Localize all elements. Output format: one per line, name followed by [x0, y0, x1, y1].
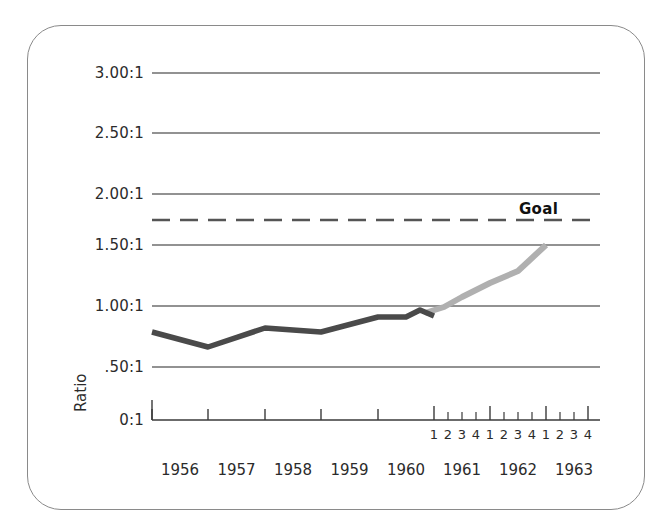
- chart-figure: Ratio 3.00:1 2.50:1 2.00:1 1.50:1 1.00:1…: [0, 0, 664, 529]
- y-tick-label-1.00: 1.00:1: [56, 297, 144, 315]
- series-projected-line: [425, 245, 546, 313]
- y-tick-label-0: 0:1: [56, 411, 144, 429]
- y-tick-label-2.00: 2.00:1: [56, 185, 144, 203]
- x-quarter-label-1963-q4: 4: [581, 427, 595, 442]
- x-year-label-1958: 1958: [265, 461, 321, 479]
- x-quarter-label-1962-q3: 3: [511, 427, 525, 442]
- x-quarter-label-1961-q2: 2: [441, 427, 455, 442]
- x-axis: [152, 406, 600, 420]
- series-actual-line: [152, 310, 434, 347]
- y-tick-label-2.50: 2.50:1: [56, 124, 144, 142]
- x-year-label-1960: 1960: [378, 461, 434, 479]
- y-tick-label-0.50: .50:1: [56, 358, 144, 376]
- x-year-label-1962: 1962: [490, 461, 546, 479]
- x-quarter-label-1961-q1: 1: [427, 427, 441, 442]
- y-tick-label-1.50: 1.50:1: [56, 236, 144, 254]
- y-axis-title: Ratio: [72, 373, 90, 412]
- x-year-label-1963: 1963: [546, 461, 602, 479]
- x-quarter-label-1963-q1: 1: [539, 427, 553, 442]
- x-quarter-label-1962-q1: 1: [483, 427, 497, 442]
- goal-annotation-label: Goal: [519, 200, 558, 218]
- x-quarter-label-1962-q4: 4: [525, 427, 539, 442]
- x-quarter-label-1961-q4: 4: [469, 427, 483, 442]
- x-year-label-1959: 1959: [321, 461, 378, 479]
- y-tick-label-3.00: 3.00:1: [56, 64, 144, 82]
- x-year-label-1956: 1956: [152, 461, 208, 479]
- x-year-label-1961: 1961: [434, 461, 490, 479]
- x-quarter-label-1963-q3: 3: [567, 427, 581, 442]
- x-quarter-label-1961-q3: 3: [455, 427, 469, 442]
- x-quarter-label-1963-q2: 2: [553, 427, 567, 442]
- x-year-label-1957: 1957: [208, 461, 265, 479]
- x-quarter-label-1962-q2: 2: [497, 427, 511, 442]
